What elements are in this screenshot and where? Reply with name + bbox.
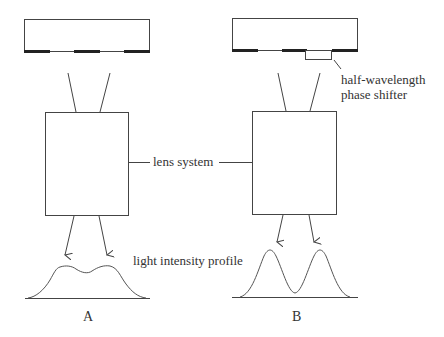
lens-system-callout: lens system [129,154,252,169]
light-rays-in-b [278,73,320,111]
chrome-segment [74,50,100,53]
chrome-segment [124,50,150,53]
panel-a: A [24,20,150,325]
intensity-profile-b [232,250,358,298]
lens-system-label: lens system [153,154,213,169]
chrome-segment [332,49,358,52]
panel-label-a: A [83,309,94,324]
chrome-segment [282,49,307,52]
intensity-profile-a [25,266,150,299]
light-rays-out-a [65,216,107,255]
panel-label-b: B [292,309,301,324]
mask-a [24,20,150,54]
panel-b: half-wavelength phase shifter B [232,19,426,325]
chrome-segment [24,50,50,53]
phase-shifter-block [306,51,332,60]
phase-shifter-leader [334,60,341,69]
chrome-segment [232,49,258,52]
light-rays-in-a [68,73,110,112]
lens-system-box-a [46,113,129,216]
mask-b [232,19,358,70]
lens-system-box-b [253,112,337,215]
intensity-profile-label: light intensity profile [133,253,243,268]
phase-shift-diagram: A half-wavelength phase shifter B [0,0,444,337]
phase-shifter-label-line2: phase shifter [341,87,408,102]
phase-shifter-label-line1: half-wavelength [341,72,426,87]
light-rays-out-b [277,215,314,242]
